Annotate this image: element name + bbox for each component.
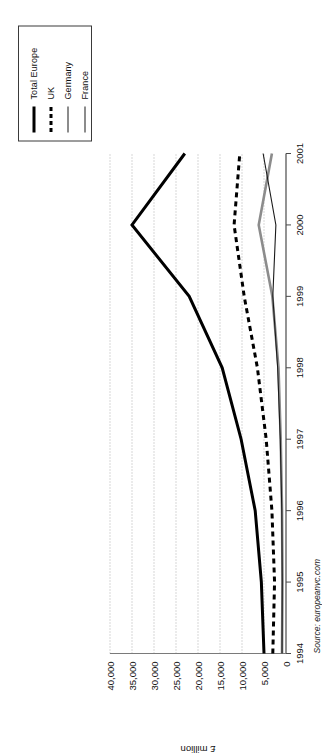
series-line-uk [234,153,274,653]
y-axis-tick-label: 5,000 [259,661,270,721]
legend-label-germany: Germany [63,61,73,99]
y-axis-tick-label: 20,000 [193,661,204,721]
plot-area [110,153,286,653]
x-axis-tick-label: 1999 [294,285,305,306]
x-axis-tick-label: 2000 [294,214,305,235]
chart-legend: Total Europe UK Germany France [18,25,92,141]
y-axis-tick-label: 15,000 [215,661,226,721]
y-axis-title: £ million [181,744,216,755]
legend-swatch-france [79,106,91,132]
y-axis-tick-label: 10,000 [237,661,248,721]
y-axis-tick-label: 25,000 [171,661,182,721]
legend-label-france: France [80,70,90,99]
x-axis-tick-label: 1998 [294,357,305,378]
x-axis-tick-label: 1994 [294,642,305,663]
source-note: Source: europeanvc.com [312,559,322,654]
x-axis-tick-label: 1997 [294,428,305,449]
plot: 05,00010,00015,00020,00025,00030,00035,0… [110,153,286,653]
legend-swatch-uk [45,106,57,132]
x-axis-tick-label: 2001 [294,142,305,163]
chart-canvas [110,153,287,653]
x-axis-tick-label: 1995 [294,571,305,592]
legend-swatch-total-europe [28,106,40,132]
series-line-france [263,153,282,653]
y-axis-tick-label: 35,000 [127,661,138,721]
x-axis-tick-label: 1996 [294,500,305,521]
legend-item-total-europe: Total Europe [26,34,41,132]
legend-swatch-germany [62,106,74,132]
legend-label-total-europe: Total Europe [29,47,39,99]
legend-item-germany: Germany [60,34,75,132]
y-axis-tick-label: 30,000 [149,661,160,721]
y-axis-tick-label: 0 [281,661,292,721]
legend-label-uk: UK [46,86,56,99]
y-axis-tick-label: 40,000 [105,661,116,721]
legend-item-france: France [77,34,92,132]
legend-item-uk: UK [43,34,58,132]
